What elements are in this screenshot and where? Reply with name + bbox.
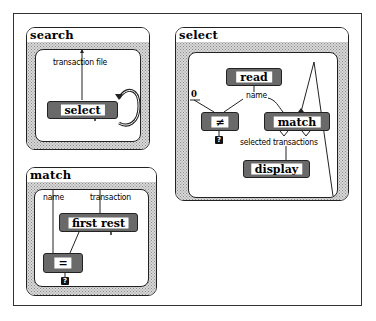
select-panel[interactable]: select 0 read name ≠ ? match selected tr… xyxy=(175,27,349,201)
match-first-rest-op[interactable]: first rest xyxy=(59,213,138,232)
select-name-label: name xyxy=(246,91,267,100)
match-input-name-label: name xyxy=(43,193,64,202)
select-display-op-label: display xyxy=(251,164,302,175)
match-panel[interactable]: match name transaction first rest = ? xyxy=(26,167,157,296)
select-output-label: selected transactions xyxy=(240,138,318,147)
select-display-op[interactable]: display xyxy=(243,160,310,178)
match-equal-op-label: = xyxy=(54,258,71,269)
search-select-op[interactable]: select xyxy=(47,101,118,119)
select-read-op-label: read xyxy=(236,72,272,83)
select-match-op-label: match xyxy=(274,116,321,127)
select-not-equal-op-label: ≠ xyxy=(211,116,228,127)
match-first-rest-op-label: first rest xyxy=(68,217,129,228)
search-select-op-label: select xyxy=(60,105,104,116)
search-panel[interactable]: search transaction file select xyxy=(26,27,150,150)
match-input-transaction-label: transaction xyxy=(90,193,131,202)
match-equal-op[interactable]: = xyxy=(43,253,83,273)
select-question-mark-icon: ? xyxy=(215,136,223,144)
select-match-op[interactable]: match xyxy=(264,112,330,131)
select-panel-title: select xyxy=(176,28,348,43)
select-not-equal-op[interactable]: ≠ xyxy=(201,112,239,131)
match-panel-title: match xyxy=(27,168,156,183)
search-panel-title: search xyxy=(27,28,149,43)
select-constant-zero: 0 xyxy=(191,90,197,99)
match-question-mark-icon: ? xyxy=(61,277,69,285)
select-read-op[interactable]: read xyxy=(226,68,282,86)
search-input-label: transaction file xyxy=(53,58,107,67)
